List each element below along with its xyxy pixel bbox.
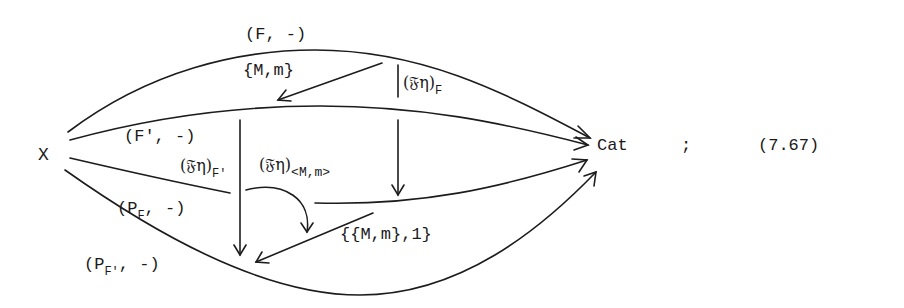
equation-number: (7.67) bbox=[758, 137, 819, 154]
label-mm: {M,m} bbox=[243, 62, 294, 79]
node-cat: Cat bbox=[597, 137, 628, 154]
commutative-diagram: X Cat ; (7.67) (F, -) (F', -) (PF, -) (P… bbox=[0, 0, 904, 308]
label-f-prime-functor: (F', -) bbox=[124, 128, 195, 145]
label-pf-prime-functor: (PF', -) bbox=[84, 256, 160, 273]
arrow-pf-functor-right bbox=[315, 160, 587, 203]
arrow-pf-prime-functor bbox=[65, 170, 596, 295]
arrowhead-f-functor bbox=[574, 126, 590, 138]
arrow-f-functor bbox=[68, 50, 590, 138]
label-feta-mm: (𝔉η)<M,m> bbox=[259, 157, 330, 174]
node-x: X bbox=[38, 146, 49, 164]
label-feta-fprime: (𝔉η)F' bbox=[180, 158, 226, 175]
label-mm-one: {{M,m},1} bbox=[340, 226, 432, 243]
label-f-functor: (F, -) bbox=[245, 26, 306, 43]
label-pf-functor: (PF, -) bbox=[117, 200, 185, 217]
label-feta-f: (𝔉η)F bbox=[403, 75, 442, 92]
two-cell-feta-mm bbox=[246, 187, 308, 232]
punctuation-semicolon: ; bbox=[681, 137, 691, 154]
